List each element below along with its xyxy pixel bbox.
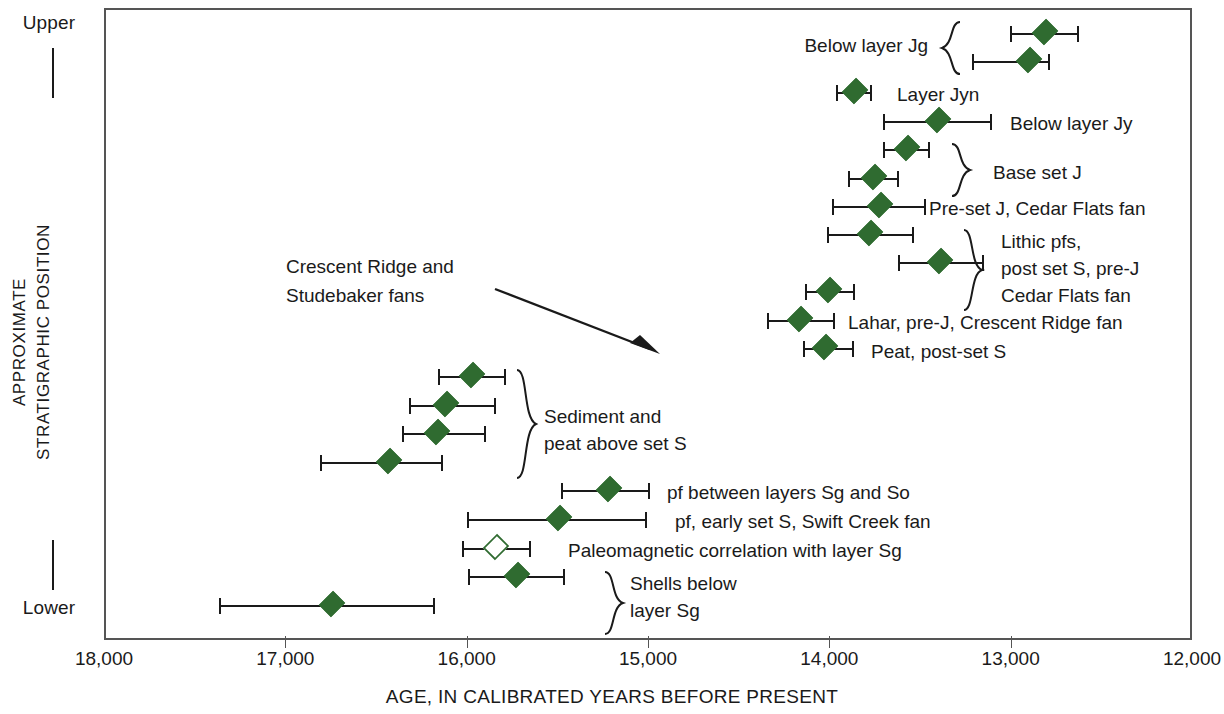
filled-diamond-marker <box>925 107 951 133</box>
brace-below-layer-jg <box>938 20 964 76</box>
data-row <box>0 478 1224 504</box>
error-bar-cap-right <box>504 369 506 385</box>
error-bar-cap-right <box>897 171 899 187</box>
label-below-layer-jy: Below layer Jy <box>1010 110 1133 137</box>
error-bar-cap-right <box>870 85 872 101</box>
x-tick-label: 16,000 <box>407 648 527 670</box>
error-bar-cap-right <box>648 483 650 499</box>
error-bar-cap-left <box>219 598 221 614</box>
annotation-arrow-icon <box>492 285 672 365</box>
x-axis-ticks: 18,00017,00016,00015,00014,00013,00012,0… <box>0 648 1224 678</box>
filled-diamond-marker <box>546 505 572 531</box>
filled-diamond-marker <box>812 334 838 360</box>
error-bar-cap-left <box>805 284 807 300</box>
filled-diamond-marker <box>927 248 953 274</box>
open-diamond-marker <box>482 534 508 560</box>
error-bar-cap-left <box>972 54 974 70</box>
filled-diamond-marker <box>375 448 401 474</box>
label-paleomagnetic: Paleomagnetic correlation with layer Sg <box>568 537 902 564</box>
error-bar-cap-right <box>928 142 930 158</box>
label-base-set-j: Base set J <box>993 159 1082 186</box>
brace-lithic-pfs <box>960 228 986 312</box>
x-tick-mark <box>648 636 649 648</box>
brace-base-set-j <box>948 142 974 198</box>
error-bar-cap-left <box>832 199 834 215</box>
annotation-crescent-ridge: Crescent Ridge and Studebaker fans <box>286 252 454 310</box>
x-tick-mark <box>285 636 286 648</box>
x-axis-title: AGE, IN CALIBRATED YEARS BEFORE PRESENT <box>0 686 1224 708</box>
label-pre-set-j: Pre-set J, Cedar Flats fan <box>929 195 1145 222</box>
error-bar-cap-left <box>767 313 769 329</box>
label-peat: Peat, post-set S <box>871 338 1006 365</box>
error-bar-cap-left <box>409 398 411 414</box>
error-bar-cap-left <box>467 512 469 528</box>
x-tick-label: 12,000 <box>1132 648 1224 670</box>
chart-root: Upper APPROXIMATE STRATIGRAPHIC POSITION… <box>0 0 1224 714</box>
error-bar-cap-right <box>990 114 992 130</box>
x-tick-mark <box>467 636 468 648</box>
error-bar-cap-left <box>438 369 440 385</box>
error-bar-cap-right <box>852 341 854 357</box>
data-row <box>0 80 1224 106</box>
label-sediment-peat: Sediment and peat above set S <box>544 403 687 457</box>
x-tick-label: 17,000 <box>225 648 345 670</box>
error-bar-cap-right <box>441 455 443 471</box>
error-bar-cap-left <box>883 114 885 130</box>
filled-diamond-marker <box>841 78 867 104</box>
error-bar-cap-right <box>494 398 496 414</box>
filled-diamond-marker <box>787 306 813 332</box>
label-pf-early: pf, early set S, Swift Creek fan <box>675 508 931 535</box>
error-bar-cap-left <box>561 483 563 499</box>
error-bar-cap-right <box>484 426 486 442</box>
error-bar-cap-left <box>883 142 885 158</box>
error-bar-cap-left <box>468 569 470 585</box>
error-bar-cap-left <box>462 541 464 557</box>
x-tick-label: 13,000 <box>951 648 1071 670</box>
filled-diamond-marker <box>894 135 920 161</box>
error-bar-cap-right <box>912 227 914 243</box>
filled-diamond-marker <box>503 562 529 588</box>
filled-diamond-marker <box>867 192 893 218</box>
label-layer-jyn: Layer Jyn <box>897 81 979 108</box>
error-bar-cap-right <box>645 512 647 528</box>
label-lahar: Lahar, pre-J, Crescent Ridge fan <box>848 309 1123 336</box>
data-row <box>0 21 1224 47</box>
error-bar-cap-left <box>848 171 850 187</box>
x-tick-mark <box>1011 636 1012 648</box>
error-bar-cap-left <box>898 255 900 271</box>
error-bar-cap-left <box>836 85 838 101</box>
error-bar-cap-right <box>433 598 435 614</box>
x-tick-mark <box>829 636 830 648</box>
filled-diamond-marker <box>424 419 450 445</box>
data-row <box>0 364 1224 390</box>
x-tick-label: 15,000 <box>588 648 708 670</box>
data-row <box>0 507 1224 533</box>
filled-diamond-marker <box>459 362 485 388</box>
error-bar-cap-right <box>833 313 835 329</box>
error-bar-cap-right <box>924 199 926 215</box>
error-bar-cap-right <box>853 284 855 300</box>
filled-diamond-marker <box>816 277 842 303</box>
error-bar-cap-left <box>320 455 322 471</box>
x-tick-label: 14,000 <box>769 648 889 670</box>
x-tick-label: 18,000 <box>44 648 164 670</box>
error-bar-cap-right <box>1077 26 1079 42</box>
filled-diamond-marker <box>1016 47 1042 73</box>
label-lithic-pfs: Lithic pfs, post set S, pre-J Cedar Flat… <box>1001 228 1139 309</box>
error-bar-cap-left <box>803 341 805 357</box>
error-bar-cap-right <box>1048 54 1050 70</box>
brace-shells-below <box>601 570 627 636</box>
filled-diamond-marker <box>318 591 344 617</box>
error-bar-cap-left <box>827 227 829 243</box>
error-bar-cap-left <box>1010 26 1012 42</box>
label-shells-below: Shells below layer Sg <box>630 570 737 624</box>
filled-diamond-marker <box>596 476 622 502</box>
filled-diamond-marker <box>433 391 459 417</box>
brace-sediment-peat <box>512 368 540 480</box>
filled-diamond-marker <box>857 220 883 246</box>
label-below-layer-jg: Below layer Jg <box>640 32 928 59</box>
filled-diamond-marker <box>1032 19 1058 45</box>
error-bar-cap-right <box>529 541 531 557</box>
error-bar-cap-right <box>563 569 565 585</box>
filled-diamond-marker <box>861 164 887 190</box>
